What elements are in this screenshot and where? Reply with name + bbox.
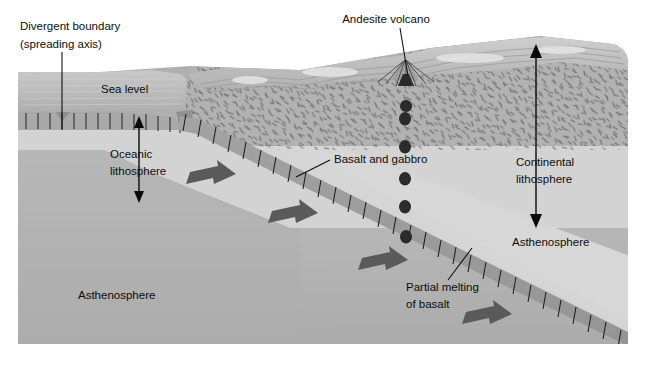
label-continental-lithosphere-line1: Continental: [516, 156, 574, 168]
label-partial-melting-line1: Partial melting: [406, 281, 479, 293]
diagram-canvas: Divergent boundary (spreading axis) Sea …: [0, 0, 646, 370]
label-continental-lithosphere-line2: lithosphere: [516, 173, 572, 185]
label-asthenosphere-left: Asthenosphere: [78, 289, 155, 301]
label-divergent-boundary-line2: (spreading axis): [20, 38, 102, 50]
cross-section-svg: Divergent boundary (spreading axis) Sea …: [0, 0, 646, 370]
label-oceanic-lithosphere-line2: lithosphere: [110, 165, 166, 177]
label-oceanic-lithosphere-line1: Oceanic: [110, 148, 152, 160]
label-andesite-volcano: Andesite volcano: [342, 13, 430, 25]
label-partial-melting-line2: of basalt: [406, 298, 450, 310]
label-sea-level: Sea level: [101, 83, 148, 95]
label-asthenosphere-right: Asthenosphere: [512, 236, 589, 248]
label-basalt-and-gabbro: Basalt and gabbro: [334, 153, 427, 165]
label-divergent-boundary-line1: Divergent boundary: [20, 20, 121, 32]
